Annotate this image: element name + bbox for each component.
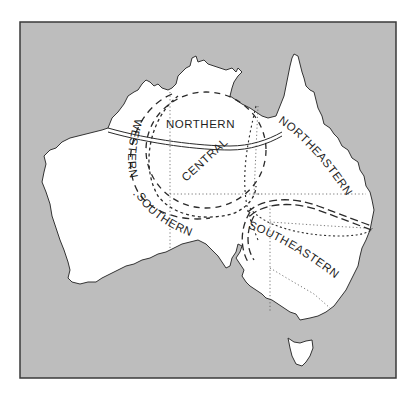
label-separator: · [132, 187, 136, 201]
label-northern: NORTHERN [166, 118, 235, 130]
australia-region-map: NORTHERN CENTRAL NORTHEASTERN WESTERN · … [0, 0, 415, 396]
